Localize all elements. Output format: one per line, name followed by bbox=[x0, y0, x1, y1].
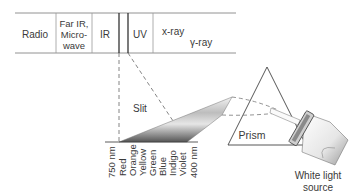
region-gamma-ray: γ-ray bbox=[190, 37, 212, 48]
source-label-line1: White light bbox=[295, 170, 342, 181]
source-label-line2: source bbox=[303, 182, 333, 193]
region-x-ray: x-ray bbox=[162, 26, 184, 37]
region-far-ir-line2: Micro- bbox=[61, 29, 87, 40]
wavelength-end: 400 nm bbox=[188, 146, 199, 178]
wavelength-start: 750 nm bbox=[106, 146, 117, 178]
region-radio: Radio bbox=[22, 29, 49, 40]
prism-dispersion-diagram: Radio Far IR, Micro- wave IR UV x-ray γ-… bbox=[0, 0, 354, 196]
region-ir: IR bbox=[100, 29, 110, 40]
spectrum-band: Radio Far IR, Micro- wave IR UV x-ray γ-… bbox=[15, 13, 236, 53]
slit-label: Slit bbox=[133, 103, 147, 114]
region-far-ir-line1: Far IR, bbox=[59, 18, 88, 29]
region-far-ir-line3: wave bbox=[62, 40, 85, 51]
region-uv: UV bbox=[133, 29, 147, 40]
spectrum-labels: 750 nm Red Orange Yellow Green Blue Indi… bbox=[106, 144, 199, 178]
white-light-source bbox=[289, 110, 348, 165]
color-violet: Violet bbox=[177, 152, 188, 176]
prism-label: Prism bbox=[239, 129, 266, 141]
